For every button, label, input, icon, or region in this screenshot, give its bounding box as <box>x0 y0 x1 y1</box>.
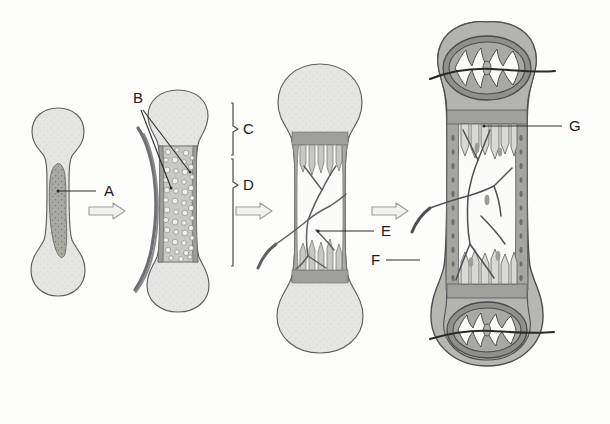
epiphyseal-plate-lower <box>447 284 527 298</box>
label-d: D <box>243 176 254 193</box>
upper-ossification-front <box>292 132 348 145</box>
stage-1-cartilage-model: A <box>31 108 114 296</box>
label-b-anchor-dot-1 <box>170 187 173 190</box>
stage-2-primary-ossification: B <box>133 89 209 312</box>
label-f: F <box>371 251 380 268</box>
bone-collar-left-strip <box>158 146 164 262</box>
label-e: E <box>381 222 391 239</box>
stage-3-medullary-cavity: E <box>258 64 391 353</box>
arrow-2 <box>236 203 272 219</box>
label-g: G <box>569 117 581 134</box>
label-b: B <box>133 89 143 106</box>
stage-4-secondary-centers: G F <box>371 22 581 366</box>
label-b-anchor-dot-2 <box>189 171 192 174</box>
label-a: A <box>104 182 114 199</box>
arrow-3 <box>372 203 408 219</box>
epiphyseal-plate-upper <box>447 110 527 124</box>
stage4-nutrient-artery <box>412 208 430 232</box>
label-a-anchor-dot <box>56 189 59 192</box>
lower-ossification-front <box>292 270 348 283</box>
bone-collar-right-strip <box>192 146 198 262</box>
bracket-c: C <box>231 103 254 155</box>
label-c: C <box>243 120 254 137</box>
endochondral-ossification-diagram: A <box>0 0 610 424</box>
nutrient-artery-stage3 <box>258 244 276 268</box>
arrow-1 <box>89 203 125 219</box>
diagram-canvas: A <box>0 0 610 424</box>
